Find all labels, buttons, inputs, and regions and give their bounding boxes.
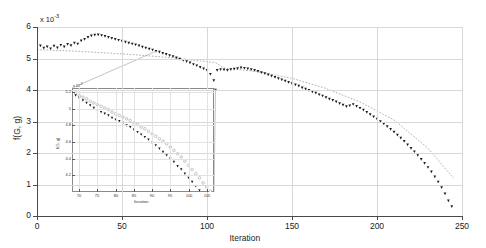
y-axis-tick [33, 27, 37, 28]
inset-data-marker [158, 137, 161, 140]
inset-data-marker [144, 127, 147, 130]
inset-y-tick [72, 175, 75, 176]
inset-data-marker [89, 100, 92, 103]
inset-data-marker [155, 144, 157, 146]
inset-x-axis-title: Iteration [134, 199, 148, 204]
y-axis-tick [33, 185, 37, 186]
y-axis-tick-label: 3 [11, 116, 31, 126]
inset-y-axis-exponent: x 10-3 [73, 82, 82, 88]
inset-data-marker [82, 96, 85, 99]
inset-gridline-horizontal [72, 175, 214, 176]
x-axis-tick [122, 216, 123, 220]
gridline-horizontal [37, 90, 462, 91]
inset-x-tick [134, 189, 135, 192]
inset-gridline-vertical [79, 88, 80, 192]
inset-data-marker [198, 177, 201, 180]
inset-data-marker [191, 168, 194, 171]
inset-x-tick-label: 105 [201, 194, 213, 198]
gridline-horizontal [37, 59, 462, 60]
inset-data-marker [111, 111, 114, 114]
inset-data-marker [154, 135, 157, 138]
inset-y-tick-label: 5.2 [62, 90, 71, 94]
y-axis-tick [33, 59, 37, 60]
inset-data-marker [173, 149, 176, 152]
y-axis-tick-label: 1 [11, 179, 31, 189]
x-axis-tick-label: 150 [282, 221, 302, 231]
inset-data-marker [147, 130, 150, 133]
inset-x-tick-label: 90 [146, 194, 158, 198]
inset-x-tick-label: 100 [183, 194, 195, 198]
inset-data-marker [82, 99, 84, 101]
inset-x-tick [79, 189, 80, 192]
inset-x-tick-label: 80 [110, 194, 122, 198]
x-axis-tick [377, 216, 378, 220]
inset-data-marker [180, 168, 182, 170]
y-axis-tick-label: 0 [11, 210, 31, 220]
inset-gridline-vertical [207, 88, 208, 192]
inset-y-tick [72, 109, 75, 110]
inset-gridline-vertical [189, 88, 190, 192]
inset-data-marker [100, 105, 103, 108]
inset-gridline-horizontal [72, 159, 214, 160]
x-axis-tick [292, 216, 293, 220]
y-axis-tick-label: 5 [11, 53, 31, 63]
inset-data-marker [129, 126, 131, 128]
inset-y-tick-label: 4.2 [62, 173, 71, 177]
inset-gridline-vertical [152, 88, 153, 192]
inset-y-tick-label: 4.8 [62, 123, 71, 127]
gridline-horizontal [37, 27, 462, 28]
inset-data-marker [93, 102, 96, 105]
inset-data-marker [85, 102, 87, 104]
x-axis-tick-label: 250 [452, 221, 472, 231]
inset-y-tick-label: 4.6 [62, 140, 71, 144]
inset-gridline-vertical [97, 88, 98, 192]
y-axis-tick-label: 2 [11, 147, 31, 157]
inset-data-marker [173, 161, 175, 163]
inset-x-tick [116, 189, 117, 192]
inset-data-marker [111, 117, 113, 119]
inset-y-tick-label: 5 [62, 107, 71, 111]
x-axis-tick-label: 200 [367, 221, 387, 231]
x-axis-tick-label: 0 [27, 221, 47, 231]
inset-gridline-vertical [116, 88, 117, 192]
inset-x-tick-label: 85 [128, 194, 140, 198]
gridline-horizontal [37, 122, 462, 123]
inset-y-axis-title: f(G, g) [55, 138, 60, 149]
inset-data-marker [147, 138, 149, 140]
inset-x-tick [189, 189, 190, 192]
x-axis-tick [462, 216, 463, 220]
inset-x-tick-label: 95 [164, 194, 176, 198]
figure-canvas: x 10-3 Iteration f(G, g) x 10-3 Iteratio… [0, 0, 486, 248]
inset-data-marker [136, 131, 138, 133]
gridline-vertical [292, 27, 293, 216]
inset-data-marker [74, 94, 76, 96]
inset-gridline-vertical [170, 88, 171, 192]
y-axis-tick [33, 122, 37, 123]
gridline-horizontal [37, 185, 462, 186]
inset-data-marker [176, 165, 178, 167]
y-axis-line [37, 27, 38, 216]
inset-data-marker [209, 202, 211, 204]
gridline-vertical [122, 27, 123, 216]
gridline-vertical [377, 27, 378, 216]
inset-y-tick [72, 92, 75, 93]
inset-y-tick [72, 142, 75, 143]
inset-data-marker [184, 160, 187, 163]
inset-gridline-vertical [134, 88, 135, 192]
inset-data-marker [140, 133, 142, 135]
inset-data-marker [180, 156, 183, 159]
inset-data-marker [118, 114, 121, 117]
x-axis-tick-label: 50 [112, 221, 132, 231]
inset-x-tick-label: 70 [73, 194, 85, 198]
x-axis-line [37, 216, 462, 217]
x-axis-tick [37, 216, 38, 220]
inset-y-tick [72, 125, 75, 126]
inset-data-marker [191, 181, 193, 183]
inset-y-tick-label: 4.4 [62, 157, 71, 161]
inset-x-tick [207, 189, 208, 192]
inset-data-marker [144, 136, 146, 138]
inset-gridline-horizontal [72, 142, 214, 143]
inset-plot-svg [0, 0, 486, 248]
y-axis-tick-label: 6 [11, 21, 31, 31]
inset-x-tick [170, 189, 171, 192]
